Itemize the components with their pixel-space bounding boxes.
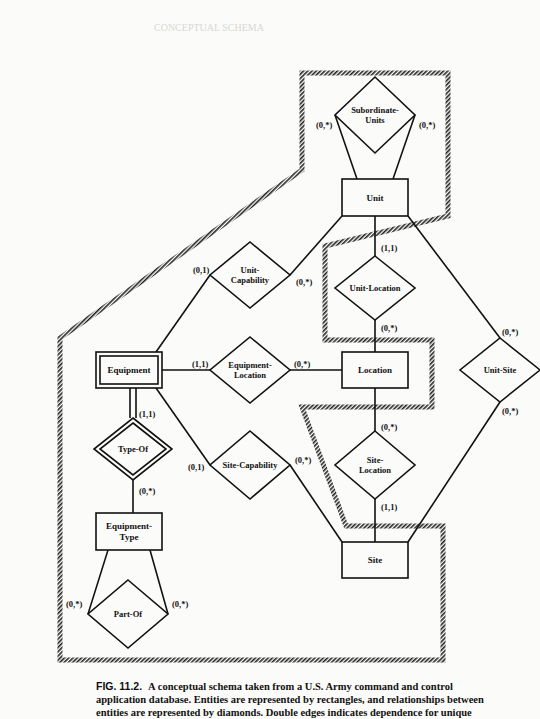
entity-equipment-type: Equipment-Type [96, 513, 162, 550]
caption-line-3: entities are represented by diamonds. Do… [96, 706, 536, 719]
figure-caption: FIG. 11.2.A conceptual schema taken from… [96, 680, 536, 719]
relationship-label: Site-Capability [223, 460, 279, 470]
cardinality-label: (0,*) [502, 406, 518, 416]
cardinality-label: (0,*) [296, 277, 312, 287]
cardinality-label: (0,1) [193, 265, 209, 275]
entity-label: Location [358, 365, 392, 375]
relationship-label: Unit-Site [484, 365, 517, 375]
cardinality-label: (0,*) [139, 486, 155, 496]
relationship-label: Site- [367, 455, 384, 465]
relationship-label: Location [359, 465, 391, 475]
cardinality-label: (0,*) [172, 599, 188, 609]
caption-line-2: application database. Entities are repre… [96, 693, 536, 706]
edge [290, 465, 342, 542]
relationship-label: Unit- [241, 265, 260, 275]
entity-site: Site [342, 542, 408, 578]
entity-label: Unit [366, 193, 383, 203]
figure-label: FIG. 11.2. [96, 680, 142, 692]
relationship-unit-location: Unit-Location [335, 256, 415, 320]
cardinality-label: (0,*) [381, 422, 397, 432]
relationship-label: Location [234, 370, 266, 380]
entity-label: Site [368, 555, 383, 565]
relationship-label: Units [365, 115, 385, 125]
relationship-type-of: Type-Of [94, 418, 172, 480]
cardinality-label: (0,*) [316, 120, 332, 130]
entity-label: Type [120, 532, 139, 542]
relationship-unit-site: Unit-Site [460, 338, 540, 402]
relationship-label: Subordinate- [351, 105, 399, 115]
entity-label: Equipment- [106, 521, 152, 531]
cardinality-label: (1,1) [139, 409, 155, 419]
cardinality-label: (0,*) [66, 599, 82, 609]
entity-equipment: Equipment [96, 352, 162, 388]
entity-unit: Unit [342, 179, 408, 216]
relationship-equipment-location: Equipment-Location [210, 337, 290, 403]
relationship-site-location: Site-Location [335, 431, 415, 499]
edge [156, 275, 210, 352]
relationship-unit-capability: Unit-Capability [210, 242, 290, 308]
cardinality-label: (1,1) [192, 359, 208, 369]
relationship-label: Capability [231, 275, 270, 285]
relationship-part-of: Part-Of [88, 580, 168, 648]
cardinality-label: (0,*) [502, 327, 518, 337]
caption-line-1: FIG. 11.2.A conceptual schema taken from… [96, 680, 536, 693]
relationship-label: Part-Of [114, 609, 142, 619]
relationship-label: Type-Of [118, 444, 148, 454]
cardinality-label: (1,1) [381, 502, 397, 512]
edge [408, 216, 500, 338]
relationship-subordinate-units: Subordinate-Units [335, 77, 415, 153]
relationship-label: Equipment- [228, 360, 272, 370]
cardinality-label: (1,1) [381, 243, 397, 253]
cardinality-label: (0,1) [188, 462, 204, 472]
entity-location: Location [342, 352, 408, 388]
cardinality-label: (0,*) [419, 120, 435, 130]
relationship-label: Unit-Location [350, 283, 401, 293]
cardinality-label: (0,*) [294, 359, 310, 369]
relationship-site-capability: Site-Capability [210, 431, 290, 499]
cardinality-label: (0,*) [295, 455, 311, 465]
entity-label: Equipment [107, 365, 150, 375]
cardinality-label: (0,*) [381, 323, 397, 333]
edge [408, 402, 500, 542]
